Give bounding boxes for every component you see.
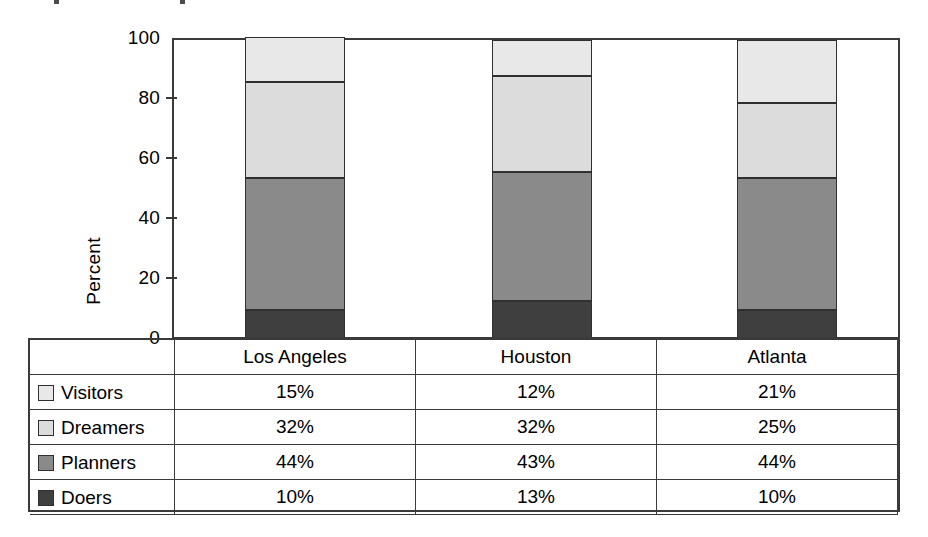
table-category-cell: Dreamers	[30, 410, 175, 445]
y-axis-tick-label: 20	[96, 268, 160, 287]
table-value-cell: 43%	[416, 445, 657, 480]
bar-segment-visitors	[245, 37, 345, 82]
bar-segment-dreamers	[737, 103, 837, 178]
legend-label: Dreamers	[61, 416, 144, 437]
y-axis-tick-label: 40	[96, 208, 160, 227]
bar-segment-doers	[492, 301, 592, 340]
legend-label: Doers	[61, 486, 112, 507]
bar-segment-visitors	[737, 40, 837, 103]
y-axis-tick-label: 60	[96, 148, 160, 167]
bar-segment-visitors	[492, 40, 592, 76]
table-value-cell: 25%	[657, 410, 898, 445]
table-value-cell: 10%	[175, 480, 416, 515]
legend-swatch-visitors	[38, 385, 54, 401]
table-row: Dreamers32%32%25%	[30, 410, 898, 445]
bar-segment-planners	[245, 178, 345, 310]
cropped-title-remnant	[180, 0, 185, 4]
stacked-bar	[737, 40, 837, 340]
legend-swatch-dreamers	[38, 420, 54, 436]
table-value-cell: 32%	[416, 410, 657, 445]
chart-figure: Percent 100806040200 Los AngelesHoustonA…	[0, 0, 928, 537]
legend-label: Visitors	[61, 381, 123, 402]
table-row: Visitors15%12%21%	[30, 375, 898, 410]
cropped-title-remnant	[54, 0, 59, 4]
table-value-cell: 21%	[657, 375, 898, 410]
table-corner-cell	[30, 340, 175, 375]
bar-segment-doers	[245, 310, 345, 340]
table-header-row: Los AngelesHoustonAtlanta	[30, 340, 898, 375]
bar-segment-dreamers	[492, 76, 592, 172]
table-category-cell: Planners	[30, 445, 175, 480]
table-category-cell: Visitors	[30, 375, 175, 410]
bar-segment-doers	[737, 310, 837, 340]
table-value-cell: 15%	[175, 375, 416, 410]
legend-swatch-planners	[38, 455, 54, 471]
table-value-cell: 44%	[175, 445, 416, 480]
stacked-bar	[492, 40, 592, 340]
table-row: Planners44%43%44%	[30, 445, 898, 480]
bar-segment-planners	[492, 172, 592, 301]
table-value-cell: 13%	[416, 480, 657, 515]
table-value-cell: 44%	[657, 445, 898, 480]
legend-swatch-doers	[38, 490, 54, 506]
y-axis-tick-label: 80	[96, 88, 160, 107]
y-axis-tick-label: 100	[96, 28, 160, 47]
stacked-bar	[245, 40, 345, 340]
bar-segment-planners	[737, 178, 837, 310]
legend-label: Planners	[61, 451, 136, 472]
table-value-cell: 10%	[657, 480, 898, 515]
table-value-cell: 32%	[175, 410, 416, 445]
data-table: Los AngelesHoustonAtlantaVisitors15%12%2…	[28, 338, 900, 512]
table-column-header: Atlanta	[657, 340, 898, 375]
table-column-header: Los Angeles	[175, 340, 416, 375]
bar-segment-dreamers	[245, 82, 345, 178]
plot-area	[172, 38, 900, 338]
table-value-cell: 12%	[416, 375, 657, 410]
table-column-header: Houston	[416, 340, 657, 375]
table-category-cell: Doers	[30, 480, 175, 515]
table-row: Doers10%13%10%	[30, 480, 898, 515]
